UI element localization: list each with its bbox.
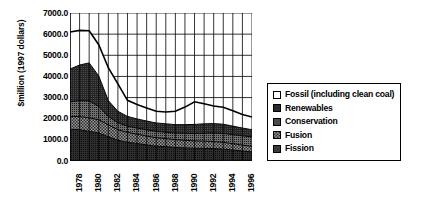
y-axis-tick-label: 1000.0 (14, 134, 68, 144)
x-axis-tick-labels: 1978198019821984198619881990199219941996 (70, 162, 252, 214)
y-axis-tick-label: 0.0 (14, 156, 68, 166)
legend-label: Conservation (285, 117, 338, 126)
plot-area (70, 13, 252, 161)
checker-square-swatch-icon (273, 131, 281, 139)
x-axis-tick-label: 1980 (93, 174, 103, 192)
dark-square-swatch-icon (273, 104, 281, 112)
chart-figure: $million (1997 dollars) 7000.06000.05000… (0, 0, 436, 214)
y-axis-tick-label: 3000.0 (14, 92, 68, 102)
y-axis-tick-label: 6000.0 (14, 29, 68, 39)
x-axis-tick-label: 1992 (208, 174, 218, 192)
x-axis-tick-label: 1986 (151, 174, 161, 192)
y-axis-tick-label: 5000.0 (14, 50, 68, 60)
y-axis-tick-labels: 7000.06000.05000.04000.03000.02000.01000… (12, 0, 68, 214)
legend-label: Renewables (285, 104, 333, 113)
x-axis-tick-label: 1988 (170, 174, 180, 192)
x-axis-tick-label: 1996 (246, 174, 256, 192)
legend-label: Fossil (including clean coal) (285, 90, 394, 99)
open-square-swatch-icon (273, 91, 281, 99)
medium-square-swatch-icon (273, 118, 281, 126)
dark-square-swatch-icon (273, 145, 281, 153)
legend-label: Fusion (285, 131, 312, 140)
legend-item-fossil: Fossil (including clean coal) (273, 88, 394, 102)
x-axis-tick-label: 1984 (131, 174, 141, 192)
legend-label: Fission (285, 144, 314, 153)
y-axis-tick-label: 7000.0 (14, 8, 68, 18)
y-axis-tick-label: 2000.0 (14, 113, 68, 123)
x-axis-tick-label: 1982 (112, 174, 122, 192)
y-axis-tick-label: 4000.0 (14, 71, 68, 81)
x-axis-tick-label: 1990 (189, 174, 199, 192)
legend-item-conservation: Conservation (273, 115, 394, 129)
legend-item-fusion: Fusion (273, 129, 394, 143)
x-axis-tick-label: 1978 (74, 174, 84, 192)
x-axis-tick-label: 1994 (227, 174, 237, 192)
stacked-area-plot (70, 13, 252, 161)
legend-item-renewables: Renewables (273, 102, 394, 116)
chart-legend: Fossil (including clean coal) Renewables… (267, 83, 401, 161)
legend-item-fission: Fission (273, 142, 394, 156)
